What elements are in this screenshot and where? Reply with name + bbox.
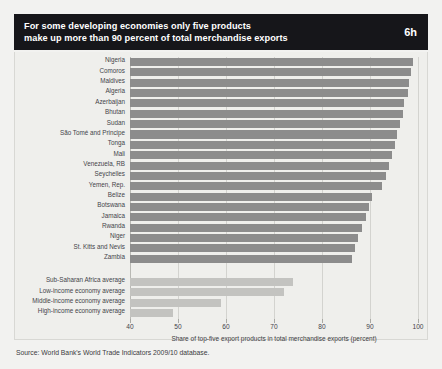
bar: [130, 288, 284, 296]
source-note: Source: World Bank's World Trade Indicat…: [16, 349, 209, 356]
bar-row: Maldives: [130, 79, 418, 87]
bar-label: Belize: [108, 191, 125, 199]
bar: [130, 213, 366, 221]
bar-row: Low-income economy average: [130, 288, 418, 296]
x-tick-label-40: 40: [126, 323, 133, 330]
bar-label: St. Kitts and Nevis: [74, 243, 125, 251]
bar-label: Jamaica: [102, 212, 125, 220]
bar: [130, 224, 362, 232]
bar-label: Tonga: [108, 139, 125, 147]
chart-header: For some developing economies only five …: [14, 14, 428, 50]
bar-row: Comoros: [130, 68, 418, 76]
bar-label: Middle-income economy average: [32, 297, 125, 305]
bar-label: Seychelles: [95, 170, 125, 178]
bar-label: Mali: [113, 150, 125, 158]
bar: [130, 299, 221, 307]
bar-row: Zambia: [130, 255, 418, 263]
bar-label: Sudan: [107, 119, 125, 127]
bar: [130, 182, 382, 190]
bar: [130, 89, 408, 97]
bar-row: High-income economy average: [130, 309, 418, 317]
bar-row: Tonga: [130, 141, 418, 149]
bar: [130, 99, 404, 107]
bar-row: Sub-Saharan Africa average: [130, 278, 418, 286]
bar-row: Azerbaijan: [130, 99, 418, 107]
bar: [130, 68, 411, 76]
bar: [130, 141, 395, 149]
x-tick-label-50: 50: [174, 323, 181, 330]
bar-label: Yemen, Rep.: [89, 181, 125, 189]
bar-row: Middle-income economy average: [130, 299, 418, 307]
bar: [130, 172, 386, 180]
bar: [130, 79, 409, 87]
bar: [130, 255, 352, 263]
bar-label: São Tomé and Principe: [60, 129, 125, 137]
x-tick-label-60: 60: [222, 323, 229, 330]
bar-row: Jamaica: [130, 213, 418, 221]
bar-label: Botswana: [97, 201, 125, 209]
bar: [130, 244, 355, 252]
bar-label: Niger: [110, 232, 125, 240]
bar-row: Algeria: [130, 89, 418, 97]
bar: [130, 110, 403, 118]
bar-label: Bhutan: [105, 108, 125, 116]
bar: [130, 120, 400, 128]
bar-label: Nigeria: [105, 56, 125, 64]
x-tick-label-100: 100: [412, 323, 423, 330]
bar-row: St. Kitts and Nevis: [130, 244, 418, 252]
bar: [130, 278, 293, 286]
bar-row: Bhutan: [130, 110, 418, 118]
figure: For some developing economies only five …: [0, 0, 442, 369]
bar-row: Sudan: [130, 120, 418, 128]
bar-label: Sub-Saharan Africa average: [46, 276, 125, 284]
source-text: Source: World Bank's World Trade Indicat…: [16, 349, 209, 356]
bar-row: Botswana: [130, 203, 418, 211]
bar-label: Rwanda: [102, 222, 125, 230]
x-tick-label-80: 80: [318, 323, 325, 330]
bar: [130, 193, 372, 201]
x-tick-label-70: 70: [270, 323, 277, 330]
bar-label: Zambia: [104, 253, 125, 261]
bar: [130, 130, 397, 138]
bar: [130, 151, 392, 159]
bar-row: Belize: [130, 193, 418, 201]
bar-label: Azerbaijan: [95, 98, 125, 106]
plot-area: NigeriaComorosMaldivesAlgeriaAzerbaijanB…: [130, 57, 418, 319]
bar-label: Maldives: [100, 77, 125, 85]
bar-row: Rwanda: [130, 224, 418, 232]
bar-row: Mali: [130, 151, 418, 159]
bar-row: Venezuela, RB: [130, 162, 418, 170]
chart-title: For some developing economies only five …: [14, 20, 404, 45]
bar: [130, 309, 173, 317]
x-tick-label-90: 90: [366, 323, 373, 330]
gridline-100: [418, 57, 419, 323]
bar: [130, 234, 358, 242]
bar-label: Comoros: [99, 67, 125, 75]
bar: [130, 58, 413, 66]
bar-row: Niger: [130, 234, 418, 242]
bar-label: Low-income economy average: [39, 287, 125, 295]
figure-number-badge: 6h: [404, 26, 428, 38]
bar: [130, 203, 369, 211]
bar-row: Nigeria: [130, 58, 418, 66]
bar-label: Venezuela, RB: [83, 160, 125, 168]
bar-row: São Tomé and Principe: [130, 130, 418, 138]
chart-title-line1: For some developing economies only five …: [24, 21, 251, 31]
x-axis-title: Share of top-five export products in tot…: [130, 335, 418, 342]
bar-label: High-income economy average: [38, 307, 125, 315]
bar-row: Yemen, Rep.: [130, 182, 418, 190]
bar-row: Seychelles: [130, 172, 418, 180]
chart-title-line2: make up more than 90 percent of total me…: [24, 32, 404, 44]
bar: [130, 162, 389, 170]
bar-label: Algeria: [105, 87, 125, 95]
